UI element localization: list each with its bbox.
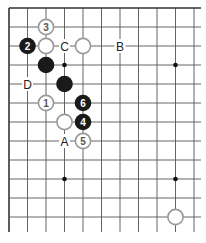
letter-mark-d: D — [22, 77, 33, 92]
svg-text:A: A — [60, 135, 68, 149]
star-point-icon — [62, 63, 67, 68]
svg-text:1: 1 — [43, 98, 49, 109]
svg-text:2: 2 — [25, 41, 31, 52]
svg-text:5: 5 — [80, 136, 86, 147]
black-stone — [38, 57, 55, 74]
letter-mark-a: A — [59, 134, 70, 149]
black-stone-2: 2 — [19, 38, 36, 55]
star-point-icon — [173, 177, 178, 182]
white-stone-1: 1 — [38, 95, 53, 110]
white-stone — [75, 38, 90, 53]
white-stone — [168, 209, 183, 224]
svg-text:4: 4 — [80, 117, 86, 128]
go-board: CBDA 321645 — [0, 0, 206, 243]
svg-text:D: D — [23, 78, 32, 92]
grid-lines — [9, 8, 201, 232]
svg-text:3: 3 — [43, 22, 49, 33]
white-stone — [38, 38, 53, 53]
white-stone-3: 3 — [38, 19, 53, 34]
white-stone-5: 5 — [75, 133, 90, 148]
star-point-icon — [62, 177, 67, 182]
black-stone-4: 4 — [75, 114, 92, 131]
letter-mark-c: C — [59, 39, 70, 54]
letter-marks: CBDA — [22, 39, 126, 149]
star-point-icon — [173, 63, 178, 68]
svg-text:C: C — [60, 40, 69, 54]
white-stone — [57, 114, 72, 129]
letter-mark-b: B — [115, 39, 126, 54]
svg-text:B: B — [116, 40, 124, 54]
black-stone-6: 6 — [75, 95, 92, 112]
black-stone — [56, 76, 73, 93]
svg-text:6: 6 — [80, 98, 86, 109]
